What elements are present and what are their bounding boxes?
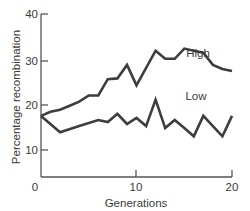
x-tick-20: 20 <box>226 181 239 193</box>
recombination-chart: Percentage recombination 40 30 20 10 0 1… <box>0 0 250 211</box>
y-tick-10: 10 <box>25 144 38 156</box>
y-tick-0: 0 <box>32 181 38 193</box>
high-series-label: High <box>186 47 210 59</box>
chart-svg: Percentage recombination 40 30 20 10 0 1… <box>0 0 250 211</box>
low-series-label: Low <box>185 90 207 102</box>
x-axis: 10 20 <box>41 170 238 193</box>
y-tick-40: 40 <box>25 8 38 20</box>
y-tick-30: 30 <box>25 55 38 67</box>
x-tick-10: 10 <box>130 181 143 193</box>
y-axis-title: Percentage recombination <box>10 30 22 164</box>
x-axis-title: Generations <box>105 197 168 209</box>
y-tick-20: 20 <box>25 99 38 111</box>
y-axis: 40 30 20 10 0 <box>25 8 48 193</box>
